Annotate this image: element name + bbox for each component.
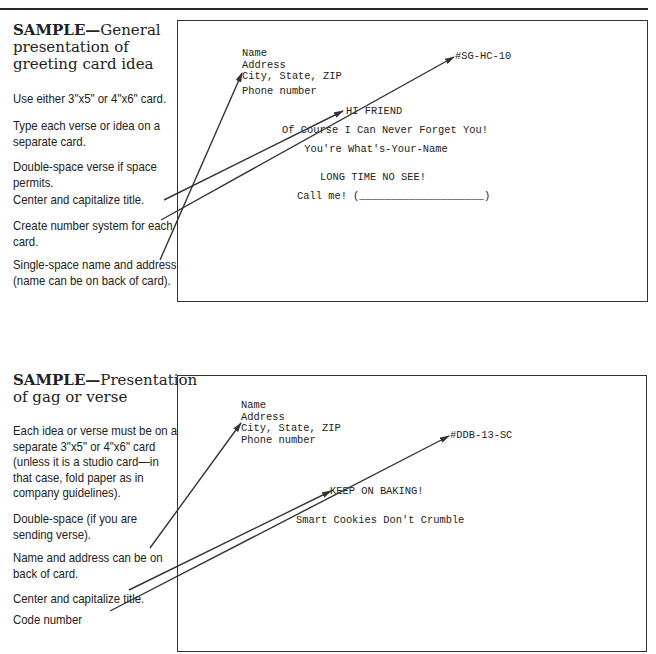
sample2-note-name-address: Name and address can be onback of card.	[13, 551, 163, 582]
sample2-heading: SAMPLE—Presentation of gag or verse	[13, 372, 197, 406]
sample2-code: #DDB-13-SC	[450, 430, 512, 442]
sample1-phone: Phone number	[242, 86, 317, 98]
sample1-verse-line1: Of Course I Can Never Forget You!	[282, 125, 488, 137]
sample2-address-block: NameAddressCity, State, ZIPPhone number	[241, 400, 341, 446]
sample2-verse: Smart Cookies Don't Crumble	[296, 515, 464, 527]
sample1-note-separate-card: Type each verse or idea on aseparate car…	[13, 119, 160, 150]
sample2-heading-line2: of gag or verse	[13, 389, 197, 406]
sample1-heading-line3: greeting card idea	[13, 56, 161, 73]
sample1-verse-line2: You're What's-Your-Name	[304, 144, 447, 156]
sample1-address-block: NameAddressCity, State, ZIP	[242, 48, 342, 83]
sample1-note-card-size: Use either 3"x5" or 4"x6" card.	[13, 92, 166, 108]
sample1-note-double-space: Double-space verse if spacepermits.	[13, 160, 157, 191]
sample1-title: HI FRIEND	[346, 106, 402, 118]
sample2-title: KEEP ON BAKING!	[330, 486, 424, 498]
sample1-note-single-space: Single-space name and address(name can b…	[13, 258, 177, 289]
sample1-heading: SAMPLE—General presentation of greeting …	[13, 22, 161, 73]
sample2-note-double-space: Double-space (if you aresending verse).	[13, 512, 137, 543]
sample1-heading-lead: SAMPLE—	[13, 21, 100, 39]
sample2-note-separate-card: Each idea or verse must be on aseparate …	[13, 424, 177, 502]
sample1-heading-line2: presentation of	[13, 39, 161, 56]
sample1-note-number-system: Create number system for eachcard.	[13, 219, 173, 250]
sample1-call-me: Call me! (____________________)	[297, 191, 490, 203]
sample2-heading-lead: SAMPLE—	[13, 371, 100, 389]
sample1-heading-rest: General	[100, 21, 160, 39]
sample1-note-center-title: Center and capitalize title.	[13, 193, 144, 209]
sample1-punchline: LONG TIME NO SEE!	[320, 172, 426, 184]
sample2-note-center-title: Center and capitalize title.	[13, 592, 144, 608]
top-rule	[0, 8, 648, 10]
sample1-code: #SG-HC-10	[455, 51, 511, 63]
sample2-note-code-number: Code number	[13, 613, 82, 629]
